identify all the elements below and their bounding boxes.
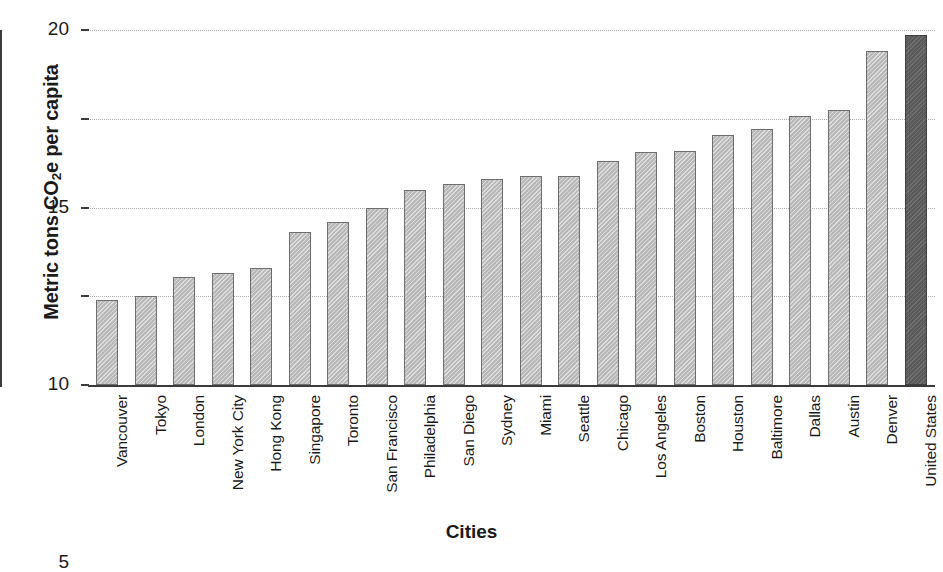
x-axis-tick-label: Tokyo: [152, 395, 170, 435]
bar: [250, 268, 272, 385]
x-axis-tick-label: United States: [922, 395, 940, 487]
bar: [866, 51, 888, 385]
x-axis-tick-label: Houston: [729, 395, 747, 452]
bar: [212, 273, 234, 385]
y-axis-tick-label: 15: [48, 196, 69, 218]
y-axis-tick-mark: 0: [81, 384, 89, 386]
plot-area: 05101520: [88, 30, 935, 385]
x-axis-tick-label: Boston: [691, 395, 709, 443]
y-axis-tick-mark: 20: [81, 29, 89, 31]
bar: [789, 116, 811, 385]
x-axis-tick-label: Austin: [845, 395, 863, 437]
x-axis-tick-label: Hong Kong: [267, 395, 285, 472]
bar: [327, 222, 349, 385]
bar: [135, 296, 157, 385]
x-axis-tick-label: Singapore: [306, 395, 324, 465]
y-axis-tick-mark: 5: [81, 295, 89, 297]
y-axis-tick-label: 5: [58, 551, 69, 572]
bar: [635, 152, 657, 385]
x-axis-tick-label: Seattle: [575, 395, 593, 443]
y-axis-title: Metric tons CO2e per capita: [40, 22, 64, 362]
bar: [712, 135, 734, 385]
bar: [96, 300, 118, 385]
x-axis-tick-label: Los Angeles: [652, 395, 670, 478]
bar: [173, 277, 195, 385]
x-axis-tick-label: Denver: [883, 395, 901, 444]
y-axis-tick-mark: 15: [81, 118, 89, 120]
x-axis-tick-label: San Diego: [460, 395, 478, 466]
x-axis-tick-label: Miami: [537, 395, 555, 436]
x-axis-tick-label: Chicago: [614, 395, 632, 451]
y-axis-title-subscript: 2: [49, 173, 64, 180]
x-axis-tick-label: Vancouver: [113, 395, 131, 467]
x-axis-tick-label: Dallas: [806, 395, 824, 437]
bar: [443, 184, 465, 385]
bar: [597, 161, 619, 385]
bar: [289, 232, 311, 385]
x-axis-tick-label: San Francisco: [383, 395, 401, 493]
x-axis-tick-label: New York City: [229, 395, 247, 490]
x-axis-title: Cities: [0, 521, 943, 543]
bar-chart-figure: Metric tons CO2e per capita 05101520 Van…: [0, 0, 943, 572]
y-axis-tick-label: 20: [48, 18, 69, 40]
x-axis-tick-label: Toronto: [344, 395, 362, 446]
bar: [520, 176, 542, 385]
x-axis-tick-label: Baltimore: [768, 395, 786, 460]
y-axis-tick-mark: 10: [81, 207, 89, 209]
bar: [674, 151, 696, 385]
bar: [905, 35, 927, 385]
gridline: [88, 30, 935, 31]
bar: [828, 110, 850, 385]
bar: [751, 129, 773, 385]
x-axis-tick-label: Sydney: [498, 395, 516, 446]
x-axis-tick-label: Philadelphia: [421, 395, 439, 478]
bar: [481, 179, 503, 385]
y-axis-line: [0, 30, 2, 387]
x-axis-tick-label: London: [190, 395, 208, 446]
y-axis-tick-label: 10: [48, 373, 69, 395]
bar: [404, 190, 426, 385]
bar: [558, 176, 580, 385]
x-axis-line: [88, 385, 935, 387]
bar: [366, 208, 388, 386]
